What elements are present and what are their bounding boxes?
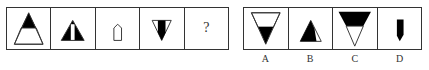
inverted-triangle-bottom-black-icon <box>244 8 288 49</box>
question-cell-2 <box>51 8 95 49</box>
option-d-cell[interactable] <box>378 8 422 49</box>
option-label-b: B <box>288 53 333 64</box>
option-labels: A B C D <box>243 53 422 64</box>
question-strip: ? <box>6 7 229 50</box>
question-cell-unknown: ? <box>185 8 228 49</box>
option-a-cell[interactable] <box>244 8 289 49</box>
triangle-striped-icon <box>51 8 94 49</box>
option-label-c: C <box>333 53 378 64</box>
option-b-cell[interactable] <box>289 8 334 49</box>
inverted-triangle-striped-icon <box>140 8 183 49</box>
option-label-a: A <box>243 53 288 64</box>
pentagon-outline-icon <box>96 8 139 49</box>
question-mark: ? <box>185 20 228 36</box>
option-label-d: D <box>377 53 422 64</box>
triangle-half-black-icon <box>7 8 50 49</box>
question-cell-3 <box>96 8 140 49</box>
triangle-black-sliver-icon <box>289 8 333 49</box>
inverted-triangle-top-black-icon <box>333 8 377 49</box>
black-pentagon-down-icon <box>378 8 422 49</box>
question-cell-4 <box>140 8 184 49</box>
question-cell-1 <box>7 8 51 49</box>
options-strip <box>243 7 422 50</box>
option-c-cell[interactable] <box>333 8 378 49</box>
